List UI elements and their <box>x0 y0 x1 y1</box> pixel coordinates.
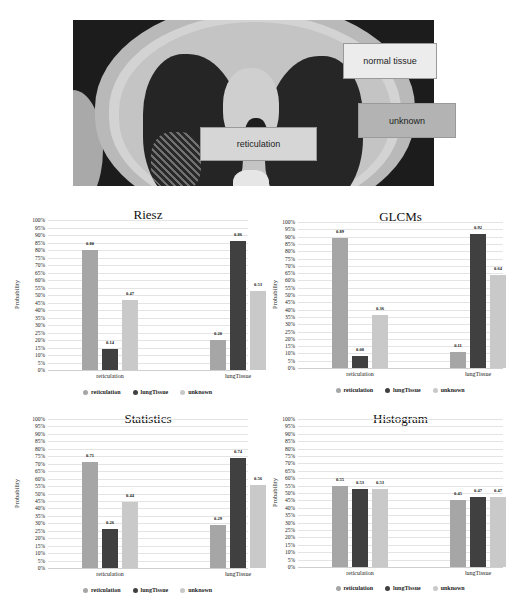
data-label: 0.08 <box>346 347 374 352</box>
gridline <box>48 228 248 229</box>
data-label: 0.74 <box>224 449 252 454</box>
y-tick-label: 30% <box>285 520 295 526</box>
gridline <box>48 318 248 319</box>
y-tick-label: 25% <box>285 527 295 533</box>
gridline <box>48 265 248 266</box>
legend-item-reticulation: reticulation <box>83 389 121 395</box>
legend-swatch-icon <box>133 390 138 395</box>
bar-unknown-reticulation: 0.36 <box>372 315 388 368</box>
x-category-label: reticulation <box>346 371 373 377</box>
legend-item-unknown: unknown <box>180 587 212 593</box>
legend-label: reticulation <box>344 585 374 591</box>
gridline <box>48 295 248 296</box>
legend-item-reticulation: reticulation <box>83 587 121 593</box>
y-tick-label: 45% <box>285 299 295 305</box>
y-tick-label: 75% <box>285 453 295 459</box>
gridline <box>298 419 503 420</box>
plot-area: 100%95%90%85%80%75%70%65%60%55%50%45%40%… <box>298 222 503 368</box>
y-axis-label: Probability <box>13 473 20 513</box>
data-label: 0.29 <box>204 516 232 521</box>
gridline <box>48 464 248 465</box>
y-tick-label: 35% <box>285 512 295 518</box>
y-tick-label: 10% <box>285 549 295 555</box>
y-tick-label: 50% <box>35 292 45 298</box>
data-label: 0.20 <box>204 331 232 336</box>
y-axis-label: Probability <box>13 275 20 315</box>
legend-item-unknown: unknown <box>433 585 465 591</box>
y-tick-label: 80% <box>35 446 45 452</box>
gridline <box>48 303 248 304</box>
legend-swatch-icon <box>385 388 390 393</box>
data-label: 0.47 <box>484 488 512 493</box>
legend-label: lungTissue <box>141 587 169 593</box>
y-tick-label: 75% <box>35 255 45 261</box>
bar-unknown-reticulation: 0.44 <box>122 502 138 568</box>
data-label: 0.14 <box>96 340 124 345</box>
legend-label: reticulation <box>91 587 121 593</box>
bar-reticulation-reticulation: 0.71 <box>82 462 98 568</box>
gridline <box>48 235 248 236</box>
y-tick-label: 85% <box>285 438 295 444</box>
y-tick-label: 15% <box>285 542 295 548</box>
y-tick-label: 75% <box>35 453 45 459</box>
y-tick-label: 65% <box>285 468 295 474</box>
plot-area: 100%95%90%85%80%75%70%65%60%55%50%45%40%… <box>298 419 503 567</box>
y-axis-label: Probability <box>271 275 278 315</box>
y-tick-label: 55% <box>35 285 45 291</box>
y-tick-label: 25% <box>285 329 295 335</box>
bar-reticulation-lungTissue: 0.45 <box>450 500 466 567</box>
bar-unknown-reticulation: 0.47 <box>122 300 138 371</box>
ct-label-reticulation: reticulation <box>200 127 317 161</box>
y-tick-label: 55% <box>35 483 45 489</box>
y-tick-label: 45% <box>285 497 295 503</box>
chart-glcms: GLCMsProbability100%95%90%85%80%75%70%65… <box>258 205 513 400</box>
y-tick-label: 0% <box>38 367 45 373</box>
legend-swatch-icon <box>180 588 185 593</box>
ct-spine <box>233 170 269 186</box>
gridline <box>48 370 248 371</box>
y-tick-label: 35% <box>35 315 45 321</box>
y-tick-label: 40% <box>35 505 45 511</box>
y-tick-label: 50% <box>285 292 295 298</box>
y-tick-label: 45% <box>35 498 45 504</box>
gridline <box>298 449 503 450</box>
y-tick-label: 50% <box>35 491 45 497</box>
y-tick-label: 5% <box>288 557 295 563</box>
legend-swatch-icon <box>180 390 185 395</box>
y-tick-label: 80% <box>35 247 45 253</box>
data-label: 0.44 <box>116 493 144 498</box>
bar-lungTissue-reticulation: 0.53 <box>352 489 368 567</box>
y-tick-label: 100% <box>282 416 295 422</box>
gridline <box>48 280 248 281</box>
bar-reticulation-reticulation: 0.55 <box>332 486 348 567</box>
y-tick-label: 55% <box>285 483 295 489</box>
gridline <box>48 220 248 221</box>
legend-item-lungTissue: lungTissue <box>133 389 169 395</box>
bar-lungTissue-lungTissue: 0.47 <box>470 497 486 567</box>
legend-swatch-icon <box>336 586 341 591</box>
legend-item-unknown: unknown <box>433 387 465 393</box>
x-category-label: lungTissue <box>225 571 251 577</box>
bar-lungTissue-lungTissue: 0.92 <box>470 234 486 368</box>
y-tick-label: 100% <box>32 416 45 422</box>
y-tick-label: 50% <box>285 490 295 496</box>
legend-label: lungTissue <box>141 389 169 395</box>
legend-swatch-icon <box>385 586 390 591</box>
y-tick-label: 20% <box>285 534 295 540</box>
y-tick-label: 70% <box>35 262 45 268</box>
legend-item-lungTissue: lungTissue <box>385 585 421 591</box>
gridline <box>48 568 248 569</box>
x-category-label: lungTissue <box>225 373 251 379</box>
gridline <box>298 471 503 472</box>
data-label: 0.47 <box>116 291 144 296</box>
y-tick-label: 0% <box>288 564 295 570</box>
y-tick-label: 40% <box>285 505 295 511</box>
y-tick-label: 40% <box>285 307 295 313</box>
legend-swatch-icon <box>83 390 88 395</box>
bar-lungTissue-lungTissue: 0.74 <box>230 458 246 568</box>
data-label: 0.64 <box>484 266 512 271</box>
gridline <box>48 471 248 472</box>
ct-label-unknown: unknown <box>358 103 456 138</box>
y-tick-label: 65% <box>35 270 45 276</box>
legend-swatch-icon <box>433 586 438 591</box>
